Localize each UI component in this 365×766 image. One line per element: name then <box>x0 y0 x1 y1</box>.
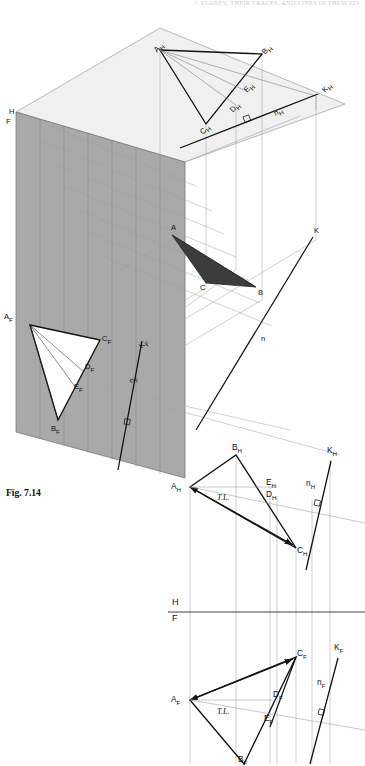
true-length-label-h: T.L. <box>217 493 230 502</box>
triangle-ahbhch-ortho <box>190 455 296 548</box>
label-bh-ortho: BH <box>232 442 242 454</box>
label-ef-ortho: EF <box>264 713 273 725</box>
label-cf-ortho: CF <box>297 648 307 660</box>
label-kh-ortho: KH <box>327 445 337 457</box>
label-nh-ortho: nH <box>306 478 315 490</box>
label-dh-ortho: DH <box>266 489 277 501</box>
true-length-line-h <box>190 487 293 545</box>
triangle-afbfcf-ortho <box>190 657 296 764</box>
label-af-ortho: AF <box>171 694 180 706</box>
true-length-label-f: T.L. <box>217 707 230 716</box>
label-nf-ortho: nF <box>317 677 325 689</box>
fold-label-f: F <box>172 613 178 623</box>
right-angle-mark-h-ortho <box>314 500 321 507</box>
label-bf-ortho: BF <box>238 754 247 766</box>
label-df-ortho: DF <box>273 689 283 701</box>
line-nf-ortho <box>310 658 338 764</box>
label-kf-ortho: KF <box>334 642 343 654</box>
label-eh-ortho: EH <box>266 477 276 489</box>
label-ch-ortho: CH <box>297 545 308 557</box>
fold-label-h: H <box>172 597 179 607</box>
label-ah-ortho: AH <box>171 481 181 493</box>
